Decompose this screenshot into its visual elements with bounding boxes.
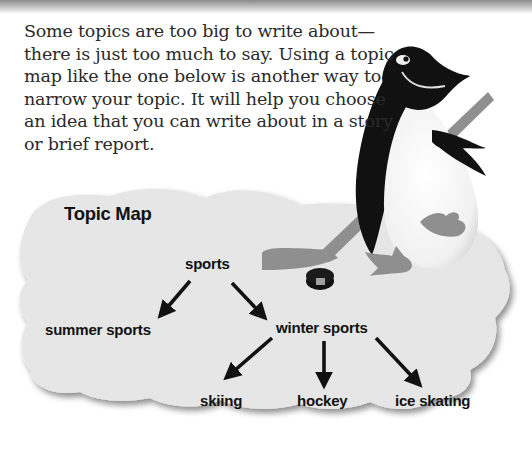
intro-line: there is just too much to say. Using a t… <box>24 43 324 66</box>
intro-line: Some topics are too big to write about— <box>24 20 324 43</box>
node-hockey: hockey <box>297 392 348 409</box>
topic-map-title: Topic Map <box>64 203 151 225</box>
node-winter-sports: winter sports <box>276 319 368 336</box>
intro-paragraph: Some topics are too big to write about— … <box>24 20 324 156</box>
node-sports: sports <box>185 255 230 272</box>
intro-line: or brief report. <box>24 133 324 156</box>
intro-line: narrow your topic. It will help you choo… <box>24 88 324 111</box>
intro-line: map like the one below is another way to <box>24 65 324 88</box>
node-ice-skating: ice skating <box>395 392 470 409</box>
puck <box>306 268 334 290</box>
node-skiing: skiing <box>200 392 242 409</box>
node-summer-sports: summer sports <box>45 321 151 338</box>
intro-line: an idea that you can write about in a st… <box>24 110 324 133</box>
